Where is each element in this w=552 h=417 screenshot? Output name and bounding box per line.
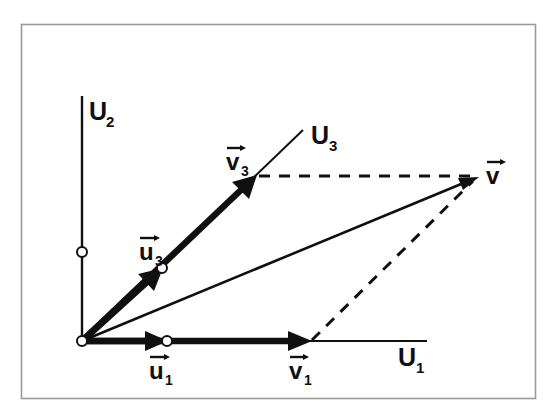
axis-label-u1: U <box>398 343 416 371</box>
axis-label-u2: U <box>89 97 107 125</box>
vector-label-u1-subscript: 1 <box>165 372 173 388</box>
diagram-canvas: U 2 U 1 U 3 u 1 u 3 <box>0 0 552 417</box>
u1-endpoint-marker <box>162 336 172 346</box>
vector-diagram-figure: U 2 U 1 U 3 u 1 u 3 <box>0 0 552 417</box>
axis-label-u1-subscript: 1 <box>416 359 424 376</box>
u2-unit-marker <box>77 247 87 257</box>
vector-label-v3-subscript: 3 <box>241 163 249 179</box>
origin-marker <box>77 336 87 346</box>
vector-label-v1-text: v <box>289 357 303 384</box>
axis-label-u3: U <box>311 121 329 149</box>
vector-label-v-text: v <box>486 162 500 189</box>
vector-label-v3-text: v <box>226 148 240 175</box>
vector-label-u3-subscript: 3 <box>155 253 163 269</box>
vector-label-u1-text: u <box>149 357 164 384</box>
axis-label-u3-subscript: 3 <box>329 137 337 154</box>
axis-label-u2-subscript: 2 <box>106 113 114 130</box>
vector-label-v1-subscript: 1 <box>304 372 312 388</box>
vector-label-u3-text: u <box>139 238 154 265</box>
